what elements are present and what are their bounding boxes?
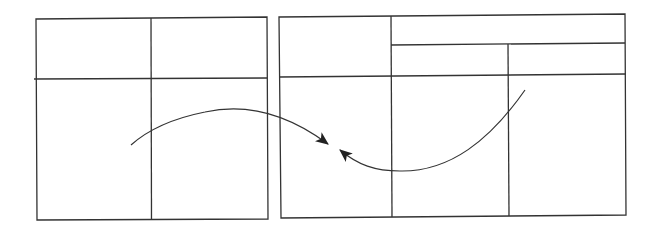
arrow-right-to-center — [340, 90, 525, 171]
right-table — [279, 14, 626, 218]
right-table-column-divider-1 — [391, 16, 392, 217]
arrow-left-to-center — [131, 109, 328, 145]
left-table-header-divider — [34, 78, 267, 79]
left-table-column-divider — [151, 18, 152, 220]
right-table-header-divider — [279, 74, 626, 77]
left-table — [34, 17, 268, 220]
right-table-column-divider-2 — [508, 44, 509, 216]
diagram-canvas — [0, 0, 655, 228]
